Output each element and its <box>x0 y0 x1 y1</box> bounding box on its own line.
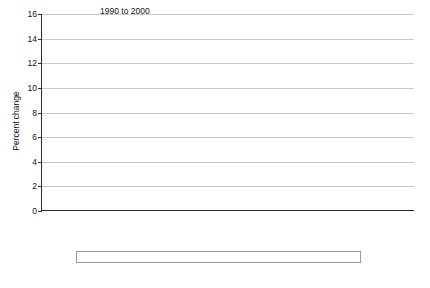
panel-header: 1990 to 2000 <box>100 6 150 16</box>
chart-container: Percent change 0246810121416 1990 to 200… <box>0 0 430 288</box>
gridline <box>41 88 414 89</box>
y-axis-tick-mark <box>38 113 42 114</box>
chart-legend <box>76 251 361 263</box>
y-axis-tick-label: 4 <box>32 157 37 167</box>
y-axis-tick-mark <box>38 162 42 163</box>
gridline <box>41 137 414 138</box>
plot-area: 0246810121416 <box>41 14 414 211</box>
y-axis-tick-mark <box>38 63 42 64</box>
y-axis-tick-label: 14 <box>28 34 37 44</box>
y-axis-tick-label: 16 <box>28 9 37 19</box>
gridline <box>41 186 414 187</box>
y-axis-tick-label: 6 <box>32 132 37 142</box>
y-axis-tick-label: 2 <box>32 181 37 191</box>
gridline <box>41 39 414 40</box>
y-axis-tick-mark <box>38 186 42 187</box>
x-axis-line <box>41 210 414 211</box>
y-axis-tick-label: 10 <box>28 83 37 93</box>
y-axis-title: Percent change <box>11 61 21 181</box>
y-axis-tick-label: 12 <box>28 58 37 68</box>
y-axis-tick-mark <box>38 88 42 89</box>
y-axis-tick-label: 8 <box>32 108 37 118</box>
y-axis-tick-mark <box>38 14 42 15</box>
y-axis-tick-mark <box>38 137 42 138</box>
gridline <box>41 63 414 64</box>
y-axis-tick-label: 0 <box>32 206 37 216</box>
gridline <box>41 113 414 114</box>
y-axis-tick-mark <box>38 39 42 40</box>
y-axis-tick-mark <box>38 211 42 212</box>
gridline <box>41 162 414 163</box>
gridline <box>41 14 414 15</box>
